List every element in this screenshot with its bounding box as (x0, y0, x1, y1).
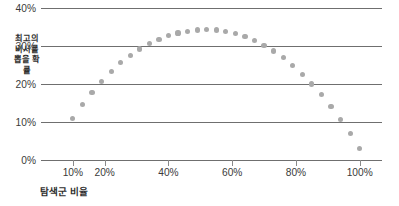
data-point (319, 92, 324, 97)
x-tick-label: 100% (347, 167, 373, 178)
data-point (195, 27, 200, 32)
data-point (89, 90, 94, 95)
data-point (300, 72, 305, 77)
data-point (252, 38, 257, 43)
data-point (128, 53, 133, 58)
data-point (357, 146, 362, 151)
data-point (223, 29, 228, 34)
x-tick-mark (168, 160, 169, 166)
x-tick-mark (73, 160, 74, 166)
data-point (109, 69, 114, 74)
x-axis-title: 탐색군 비율 (40, 184, 88, 198)
y-tick-label: 40% (16, 3, 36, 14)
data-point (214, 27, 219, 32)
plot-area: 0%10%20%30%40% 10%20%40%60%80%100% (41, 8, 382, 160)
x-tick-label: 10% (63, 167, 83, 178)
x-axis-ticks-group: 10%20%40%60%80%100% (41, 160, 382, 190)
data-point (185, 29, 190, 34)
gridline-10pct (41, 122, 382, 123)
data-point (242, 34, 247, 39)
x-tick-label: 60% (222, 167, 242, 178)
gridline-20pct (41, 84, 382, 85)
x-tick-label: 80% (286, 167, 306, 178)
x-tick-mark (360, 160, 361, 166)
x-tick-label: 40% (158, 167, 178, 178)
chart-figure: 최고의 비서를 뽑을 확률 0%10%20%30%40% 10%20%40%60… (0, 0, 399, 206)
y-tick-label: 20% (16, 79, 36, 90)
data-point (271, 48, 276, 53)
data-point (309, 81, 314, 86)
gridline-30pct (41, 46, 382, 47)
data-point (118, 60, 123, 65)
data-point (99, 79, 104, 84)
data-point (137, 46, 142, 51)
data-point (175, 30, 180, 35)
y-tick-label: 0% (21, 155, 36, 166)
data-point (348, 131, 353, 136)
data-point (70, 116, 75, 121)
data-point (80, 102, 85, 107)
data-point (204, 27, 209, 32)
x-tick-mark (232, 160, 233, 166)
data-point (261, 43, 266, 48)
data-point (328, 104, 333, 109)
y-tick-label: 10% (16, 117, 36, 128)
data-point (166, 33, 171, 38)
y-tick-label: 30% (16, 41, 36, 52)
x-tick-mark (105, 160, 106, 166)
x-tick-mark (296, 160, 297, 166)
gridline-40pct (41, 8, 382, 9)
data-point (233, 31, 238, 36)
data-point (290, 63, 295, 68)
y-axis-title-wrapper: 최고의 비서를 뽑을 확률 (12, 34, 42, 166)
data-point (338, 117, 343, 122)
data-point (281, 55, 286, 60)
x-tick-label: 20% (95, 167, 115, 178)
data-point (156, 37, 161, 42)
